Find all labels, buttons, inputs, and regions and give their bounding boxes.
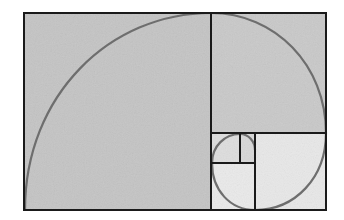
square-1 — [24, 13, 211, 210]
golden-spiral-diagram — [0, 0, 344, 220]
square-6 — [240, 133, 255, 163]
square-3 — [255, 133, 326, 210]
square-2 — [211, 13, 326, 133]
